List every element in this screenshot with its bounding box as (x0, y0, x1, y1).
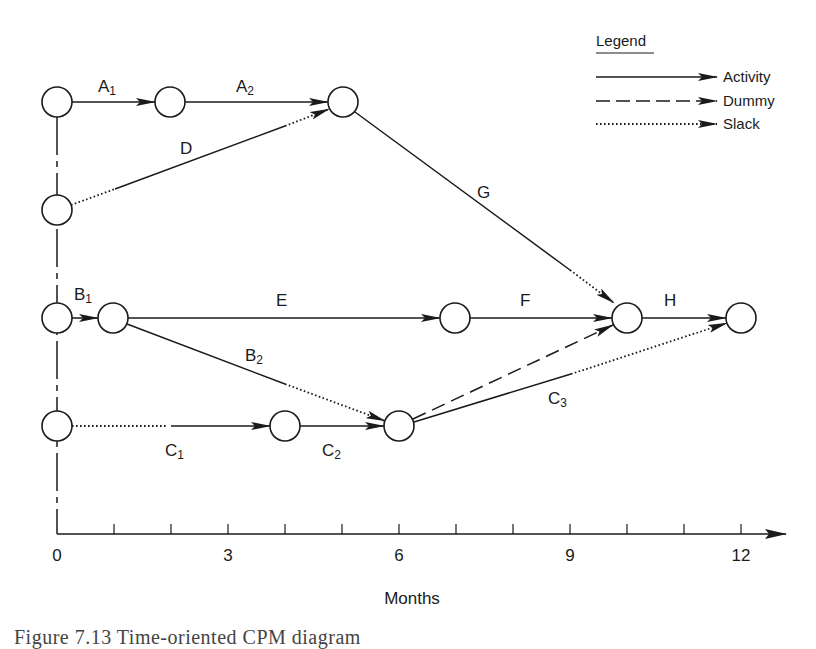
arrow-c3 (414, 323, 727, 422)
legend-item-dummy: Dummy (596, 92, 775, 109)
legend-label-dummy: Dummy (723, 92, 775, 109)
node-n7 (440, 303, 470, 333)
node-n9 (726, 303, 756, 333)
arrow-g (355, 112, 614, 303)
node-n2 (155, 87, 185, 117)
g-activity (355, 112, 570, 270)
node-n11 (270, 411, 300, 441)
tick-label-0: 0 (52, 546, 61, 565)
label-g: G (477, 183, 490, 202)
label-c2: C2 (322, 441, 341, 462)
figure-caption: Figure 7.13 Time-oriented CPM diagram (14, 626, 361, 649)
axis-ticks (114, 524, 741, 534)
legend-label-slack: Slack (723, 115, 760, 132)
b2-slack (285, 384, 385, 421)
d-end-slack (285, 109, 329, 126)
arrow-dummy (413, 325, 613, 419)
label-b1: B1 (74, 285, 92, 306)
tick-label-3: 3 (223, 546, 232, 565)
activity-labels: A1 A2 D G B1 E F H B2 C1 C2 C3 (74, 77, 676, 462)
label-c3: C3 (548, 389, 567, 410)
legend: Legend Activity Dummy Slack (596, 32, 775, 132)
legend-label-activity: Activity (723, 68, 771, 85)
node-n1 (42, 87, 72, 117)
arrow-b2 (127, 324, 385, 421)
node-n4 (42, 195, 72, 225)
legend-item-slack: Slack (596, 115, 760, 132)
label-a2: A2 (236, 77, 254, 98)
node-n6 (98, 303, 128, 333)
label-b2: B2 (245, 346, 263, 367)
label-c1: C1 (165, 441, 184, 462)
d-activity (115, 126, 285, 189)
node-n3 (328, 87, 358, 117)
node-n12 (384, 411, 414, 441)
tick-label-6: 6 (394, 546, 403, 565)
node-n10 (42, 411, 72, 441)
d-start-slack (71, 189, 115, 205)
event-nodes (42, 87, 756, 441)
axis-title: Months (384, 589, 440, 608)
label-h: H (664, 291, 676, 310)
label-a1: A1 (98, 77, 116, 98)
tick-label-9: 9 (565, 546, 574, 565)
g-slack (570, 270, 614, 303)
legend-item-activity: Activity (596, 68, 771, 85)
node-n5 (42, 303, 72, 333)
label-d: D (180, 139, 192, 158)
c3-slack (571, 323, 727, 374)
label-e: E (276, 291, 287, 310)
legend-title: Legend (596, 32, 646, 49)
tick-label-12: 12 (732, 546, 751, 565)
arrow-d (71, 109, 329, 205)
activity-arrows (71, 102, 727, 426)
label-f: F (520, 291, 530, 310)
node-n8 (612, 303, 642, 333)
time-axis: 0 3 6 9 12 Months (52, 524, 786, 608)
